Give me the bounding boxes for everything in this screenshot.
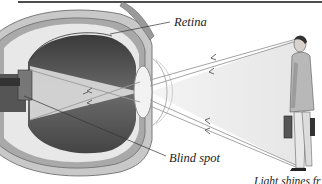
blind-spot-diagram: Retina Blind spot Light shines fr bbox=[0, 0, 322, 184]
retina-label: Retina bbox=[174, 16, 207, 29]
caption-label: Light shines fr bbox=[254, 176, 320, 184]
blind-spot-label: Blind spot bbox=[169, 152, 220, 165]
eye-illustration bbox=[0, 0, 322, 184]
briefcase bbox=[284, 116, 292, 138]
lens bbox=[134, 66, 152, 118]
light-cone bbox=[150, 38, 300, 168]
